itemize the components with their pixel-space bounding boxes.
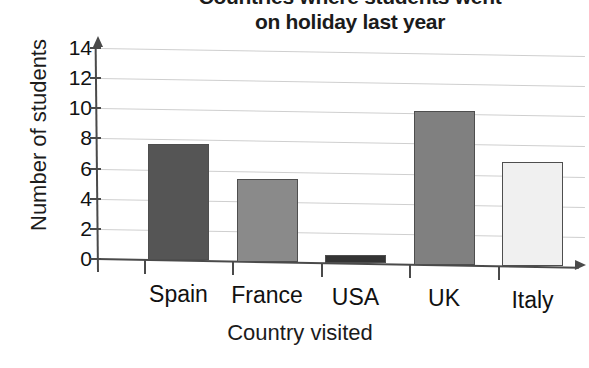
x-axis-label-italy: Italy	[490, 289, 575, 312]
bar-italy	[502, 162, 563, 266]
y-axis-tick-label: 4	[58, 188, 92, 209]
bar-uk	[414, 111, 475, 265]
x-axis-tick-labels: SpainFranceUSAUKItaly	[97, 276, 589, 308]
bar-chart: Countries where students went on holiday…	[0, 0, 589, 368]
x-axis-label-france: France	[225, 284, 310, 307]
y-axis-title: Number of students	[26, 10, 52, 260]
x-axis-label-spain: Spain	[136, 283, 221, 306]
bar-spain	[148, 144, 209, 260]
y-axis-tick-label: 14	[58, 37, 92, 58]
chart-title-line-1: Countries where students went	[150, 0, 550, 9]
y-axis-tick-label: 10	[58, 97, 92, 118]
x-axis-tick	[144, 260, 146, 274]
y-axis-tick	[90, 137, 101, 139]
bar-usa	[325, 255, 386, 263]
y-axis-tick-label: 2	[58, 218, 92, 239]
gridline	[99, 78, 585, 87]
gridline	[99, 48, 585, 57]
x-axis-arrow-icon	[575, 260, 586, 270]
y-axis-tick	[90, 47, 101, 49]
y-axis-tick-label: 6	[58, 158, 92, 179]
gridline	[99, 108, 585, 117]
x-axis-label-usa: USA	[313, 286, 398, 309]
y-axis-tick	[90, 77, 101, 79]
y-axis-tick	[90, 198, 101, 200]
y-axis-tick-label: 0	[58, 248, 92, 269]
bar-france	[237, 179, 298, 262]
plot-area	[97, 40, 589, 265]
y-axis-tick	[90, 228, 101, 230]
x-axis-title: Country visited	[130, 320, 470, 346]
y-axis-tick-label: 12	[58, 67, 92, 88]
x-axis-tick	[321, 263, 323, 277]
x-axis-tick	[232, 261, 234, 275]
y-axis-line	[95, 46, 99, 272]
y-axis-tick	[90, 107, 101, 109]
y-axis-arrow-icon	[93, 36, 103, 47]
y-axis-tick-labels: 02468101214	[52, 40, 92, 265]
y-axis-tick	[90, 168, 101, 170]
x-axis-label-uk: UK	[402, 287, 487, 310]
chart-title-line-2: on holiday last year	[150, 9, 550, 34]
chart-title: Countries where students went on holiday…	[150, 0, 550, 34]
y-axis-tick-label: 8	[58, 127, 92, 148]
y-axis-tick	[90, 258, 101, 260]
